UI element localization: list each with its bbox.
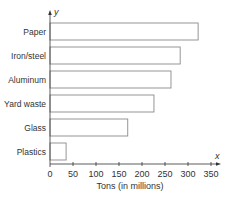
x-ticks: 050100150200250300350 <box>47 162 218 179</box>
x-axis-variable: x <box>214 151 220 161</box>
x-axis-arrow-icon <box>216 162 221 166</box>
category-label: Plastics <box>17 147 46 157</box>
bar-chart: PaperIron/steelAluminumYard wasteGlassPl… <box>0 0 229 203</box>
x-tick-label: 100 <box>88 169 103 179</box>
bar-aluminum <box>50 71 171 88</box>
bar-yard-waste <box>50 95 154 112</box>
category-label: Iron/steel <box>11 51 46 61</box>
x-tick-label: 50 <box>68 169 78 179</box>
category-label: Glass <box>24 123 46 133</box>
x-tick-label: 0 <box>47 169 52 179</box>
bars-group <box>50 23 198 160</box>
bar-plastics <box>50 143 66 160</box>
bar-glass <box>50 119 128 136</box>
y-axis-arrow-icon <box>48 10 52 15</box>
category-labels: PaperIron/steelAluminumYard wasteGlassPl… <box>4 27 46 157</box>
x-axis-label: Tons (in millions) <box>96 181 163 191</box>
x-tick-label: 250 <box>157 169 172 179</box>
x-tick-label: 150 <box>111 169 126 179</box>
category-label: Aluminum <box>8 75 46 85</box>
x-tick-label: 350 <box>203 169 218 179</box>
x-tick-label: 200 <box>134 169 149 179</box>
y-axis-variable: y <box>53 7 59 17</box>
category-label: Paper <box>23 27 46 37</box>
category-label: Yard waste <box>4 99 46 109</box>
bar-paper <box>50 23 198 40</box>
x-tick-label: 300 <box>180 169 195 179</box>
bar-iron-steel <box>50 47 180 64</box>
